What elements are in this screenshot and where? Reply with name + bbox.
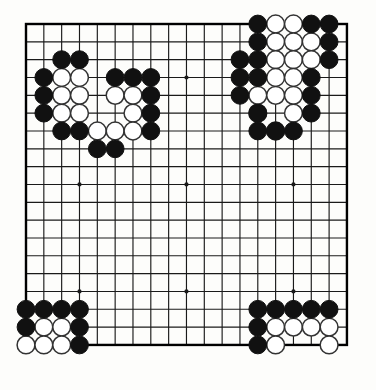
black-stone[interactable] xyxy=(231,86,249,104)
black-stone[interactable] xyxy=(35,69,53,87)
white-stone[interactable] xyxy=(71,69,89,87)
black-stone[interactable] xyxy=(285,300,303,318)
black-stone[interactable] xyxy=(71,51,89,69)
white-stone[interactable] xyxy=(302,33,320,51)
black-stone[interactable] xyxy=(142,69,160,87)
black-stone[interactable] xyxy=(320,33,338,51)
white-stone[interactable] xyxy=(285,69,303,87)
black-stone[interactable] xyxy=(17,300,35,318)
black-stone[interactable] xyxy=(35,300,53,318)
black-stone[interactable] xyxy=(249,15,267,33)
black-stone[interactable] xyxy=(53,51,71,69)
black-stone[interactable] xyxy=(71,318,89,336)
black-stone[interactable] xyxy=(142,86,160,104)
black-stone[interactable] xyxy=(106,140,124,158)
black-stone[interactable] xyxy=(249,122,267,140)
black-stone[interactable] xyxy=(71,122,89,140)
go-board[interactable] xyxy=(0,0,376,390)
black-stone[interactable] xyxy=(35,86,53,104)
white-stone[interactable] xyxy=(53,336,71,354)
white-stone[interactable] xyxy=(53,86,71,104)
black-stone[interactable] xyxy=(249,51,267,69)
black-stone[interactable] xyxy=(249,318,267,336)
white-stone[interactable] xyxy=(285,104,303,122)
white-stone[interactable] xyxy=(285,51,303,69)
black-stone[interactable] xyxy=(249,33,267,51)
white-stone[interactable] xyxy=(106,122,124,140)
black-stone[interactable] xyxy=(71,336,89,354)
white-stone[interactable] xyxy=(88,122,106,140)
black-stone[interactable] xyxy=(53,122,71,140)
white-stone[interactable] xyxy=(106,86,124,104)
black-stone[interactable] xyxy=(142,122,160,140)
black-stone[interactable] xyxy=(249,336,267,354)
white-stone[interactable] xyxy=(17,336,35,354)
black-stone[interactable] xyxy=(53,300,71,318)
star-point xyxy=(77,289,81,293)
black-stone[interactable] xyxy=(124,69,142,87)
white-stone[interactable] xyxy=(53,104,71,122)
black-stone[interactable] xyxy=(142,104,160,122)
white-stone[interactable] xyxy=(320,318,338,336)
star-point xyxy=(184,75,188,79)
black-stone[interactable] xyxy=(302,104,320,122)
white-stone[interactable] xyxy=(302,318,320,336)
white-stone[interactable] xyxy=(124,86,142,104)
black-stone[interactable] xyxy=(35,104,53,122)
white-stone[interactable] xyxy=(124,122,142,140)
white-stone[interactable] xyxy=(267,86,285,104)
star-point xyxy=(184,289,188,293)
black-stone[interactable] xyxy=(71,300,89,318)
black-stone[interactable] xyxy=(320,51,338,69)
star-point xyxy=(184,182,188,186)
go-board-container xyxy=(0,0,376,390)
black-stone[interactable] xyxy=(320,300,338,318)
white-stone[interactable] xyxy=(285,33,303,51)
star-point xyxy=(291,182,295,186)
black-stone[interactable] xyxy=(302,300,320,318)
white-stone[interactable] xyxy=(71,86,89,104)
white-stone[interactable] xyxy=(249,86,267,104)
star-point xyxy=(291,289,295,293)
white-stone[interactable] xyxy=(302,51,320,69)
white-stone[interactable] xyxy=(267,33,285,51)
black-stone[interactable] xyxy=(231,69,249,87)
white-stone[interactable] xyxy=(53,318,71,336)
black-stone[interactable] xyxy=(249,104,267,122)
black-stone[interactable] xyxy=(17,318,35,336)
white-stone[interactable] xyxy=(320,336,338,354)
black-stone[interactable] xyxy=(88,140,106,158)
black-stone[interactable] xyxy=(302,69,320,87)
black-stone[interactable] xyxy=(267,122,285,140)
white-stone[interactable] xyxy=(267,69,285,87)
white-stone[interactable] xyxy=(35,336,53,354)
black-stone[interactable] xyxy=(249,69,267,87)
black-stone[interactable] xyxy=(320,15,338,33)
white-stone[interactable] xyxy=(285,318,303,336)
white-stone[interactable] xyxy=(267,336,285,354)
black-stone[interactable] xyxy=(231,51,249,69)
black-stone[interactable] xyxy=(302,15,320,33)
white-stone[interactable] xyxy=(35,318,53,336)
white-stone[interactable] xyxy=(124,104,142,122)
black-stone[interactable] xyxy=(302,86,320,104)
white-stone[interactable] xyxy=(285,86,303,104)
white-stone[interactable] xyxy=(71,104,89,122)
white-stone[interactable] xyxy=(53,69,71,87)
white-stone[interactable] xyxy=(285,15,303,33)
black-stone[interactable] xyxy=(285,122,303,140)
black-stone[interactable] xyxy=(106,69,124,87)
white-stone[interactable] xyxy=(267,51,285,69)
star-point xyxy=(77,182,81,186)
black-stone[interactable] xyxy=(249,300,267,318)
white-stone[interactable] xyxy=(267,318,285,336)
black-stone[interactable] xyxy=(267,300,285,318)
white-stone[interactable] xyxy=(267,15,285,33)
